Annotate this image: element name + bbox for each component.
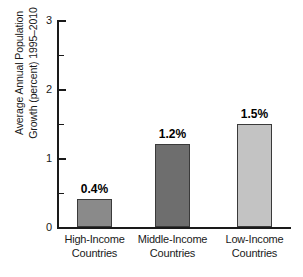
bar-value-high-income: 0.4% xyxy=(64,183,125,196)
x-axis-line xyxy=(57,227,291,229)
bar-value-low-income: 1.5% xyxy=(224,108,285,121)
y-tick-minor-1point5 xyxy=(59,124,64,126)
bar-low-income xyxy=(237,124,272,228)
y-tick-major-0 xyxy=(59,227,66,229)
bar-value-middle-income: 1.2% xyxy=(142,128,203,141)
y-tick-minor-2point5 xyxy=(59,55,64,57)
x-category-label-low-income-line-2: Countries xyxy=(209,247,300,261)
x-category-label-low-income-line-1: Low-Income xyxy=(209,233,300,247)
y-tick-label-0-wrap: 0 xyxy=(28,222,52,233)
y-tick-label-3-wrap: 3 xyxy=(28,15,52,26)
x-category-label-middle-income-line-1: Middle-Income xyxy=(124,233,221,247)
y-tick-label-1: 1 xyxy=(38,153,52,164)
x-category-label-low-income: Low-Income Countries xyxy=(209,233,300,260)
x-category-label-middle-income: Middle-Income Countries xyxy=(124,233,221,260)
y-tick-label-0: 0 xyxy=(38,222,52,233)
y-tick-major-2 xyxy=(59,89,66,91)
y-axis-title-line-1: Average Annual Population xyxy=(13,0,27,168)
y-tick-label-1-wrap: 1 xyxy=(28,153,52,164)
y-tick-major-1 xyxy=(59,158,66,160)
bar-chart-figure: Average Annual Population Growth (percen… xyxy=(0,0,303,277)
x-category-label-middle-income-line-2: Countries xyxy=(124,247,221,261)
bar-middle-income xyxy=(155,144,190,227)
y-tick-major-3 xyxy=(59,20,66,22)
bar-high-income xyxy=(77,199,112,227)
y-tick-label-2-wrap: 2 xyxy=(28,84,52,95)
y-tick-label-2: 2 xyxy=(38,84,52,95)
y-tick-label-3: 3 xyxy=(38,15,52,26)
